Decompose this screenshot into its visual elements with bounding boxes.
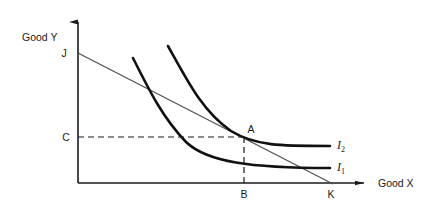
budget-line-jk bbox=[78, 53, 333, 184]
curve-label-i2-subscript: 2 bbox=[341, 145, 345, 154]
point-label-a: A bbox=[247, 123, 254, 135]
point-label-k: K bbox=[327, 188, 334, 200]
y-axis-label: Good Y bbox=[22, 31, 57, 43]
indifference-curve-diagram: Good Y Good X J K A B C I2 I1 bbox=[0, 0, 433, 210]
curve-label-i1-subscript: 1 bbox=[341, 167, 345, 176]
curve-label-i2: I2 bbox=[336, 138, 345, 154]
curve-label-i1: I1 bbox=[336, 160, 345, 176]
diagram-canvas: Good Y Good X J K A B C I2 I1 bbox=[0, 0, 433, 210]
point-label-b: B bbox=[240, 188, 247, 200]
indifference-curve-i1 bbox=[133, 58, 330, 168]
point-label-c: C bbox=[62, 131, 70, 143]
point-label-j: J bbox=[61, 47, 66, 59]
x-axis-label: Good X bbox=[378, 177, 414, 189]
